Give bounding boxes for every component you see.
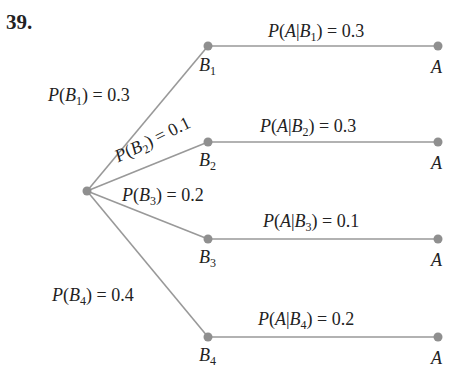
root-node [83, 187, 92, 196]
node-b1 [204, 42, 213, 51]
edge-root-b4 [87, 191, 208, 337]
leaf-label-a4: A [431, 349, 442, 367]
node-b2 [204, 138, 213, 147]
node-a1 [434, 42, 443, 51]
edge-root-b1 [87, 46, 208, 191]
node-a2 [434, 138, 443, 147]
prob-label-b4: P(B4) = 0.4 [52, 286, 134, 307]
leaf-label-a3: A [431, 251, 442, 269]
node-label-b4: B4 [199, 346, 216, 367]
tree-diagram [0, 0, 454, 381]
prob-label-b3: P(B3) = 0.2 [122, 186, 204, 207]
node-b3 [204, 235, 213, 244]
problem-number: 39. [6, 12, 32, 33]
node-a3 [434, 235, 443, 244]
node-label-b3: B3 [199, 248, 216, 269]
cond-label-b3: P(A|B3) = 0.1 [263, 212, 359, 233]
cond-label-b2: P(A|B2) = 0.3 [260, 117, 356, 138]
cond-label-b4: P(A|B4) = 0.2 [258, 310, 354, 331]
cond-label-b1: P(A|B1) = 0.3 [268, 22, 364, 43]
node-label-b1: B1 [199, 56, 216, 77]
node-b4 [204, 333, 213, 342]
node-label-b2: B2 [199, 151, 216, 172]
node-a4 [434, 333, 443, 342]
prob-label-b1: P(B1) = 0.3 [48, 86, 130, 107]
leaf-label-a1: A [431, 58, 442, 76]
leaf-label-a2: A [431, 154, 442, 172]
